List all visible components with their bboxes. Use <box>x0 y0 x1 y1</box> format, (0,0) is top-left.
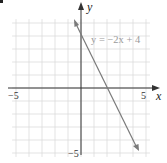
y-axis-label: y <box>86 0 93 14</box>
x-min-tick-label: −5 <box>8 90 19 101</box>
equation-label: y = −2x + 4 <box>91 34 141 45</box>
x-max-tick-label: 5 <box>141 90 146 101</box>
y-min-tick-label: −5 <box>68 148 79 159</box>
line-arrow-end-icon <box>133 144 139 151</box>
y-axis-arrow-icon <box>78 2 84 10</box>
coordinate-plane: x y −5 5 −5 y = −2x + 4 <box>0 0 167 163</box>
x-axis-label: x <box>155 89 162 103</box>
